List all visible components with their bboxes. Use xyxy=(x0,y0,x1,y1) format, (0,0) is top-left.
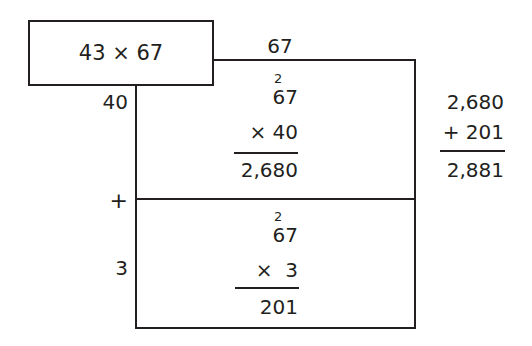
upper-multiplicand: 67 xyxy=(230,87,298,107)
side-factor-plus: + xyxy=(80,190,128,212)
side-factor-tens: 40 xyxy=(80,92,128,112)
lower-multiplicand: 67 xyxy=(230,225,298,245)
problem-box: 43 × 67 xyxy=(28,20,214,86)
lower-product-rule xyxy=(235,287,299,289)
area-model-right-border xyxy=(414,59,416,329)
upper-product: 2,680 xyxy=(220,160,298,180)
side-factor-ones: 3 xyxy=(80,258,128,278)
area-model-divider xyxy=(136,198,416,200)
sum-addend-1: 2,680 xyxy=(430,92,504,112)
upper-product-rule xyxy=(234,152,298,154)
top-factor-label: 67 xyxy=(250,36,310,56)
problem-label: 43 × 67 xyxy=(30,43,212,64)
sum-rule xyxy=(440,150,505,152)
lower-carry: 2 xyxy=(274,210,282,223)
area-model-left-border xyxy=(135,59,137,329)
lower-product: 201 xyxy=(230,297,298,317)
upper-carry: 2 xyxy=(274,72,282,85)
sum-addend-2: + 201 xyxy=(430,122,504,142)
sum-total: 2,881 xyxy=(430,160,504,180)
lower-multiplier: × 3 xyxy=(230,260,298,280)
upper-multiplier: × 40 xyxy=(230,122,298,142)
area-model-bottom-border xyxy=(135,327,416,329)
